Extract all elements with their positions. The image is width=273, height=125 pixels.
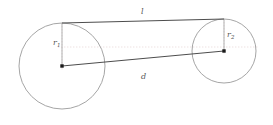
center-distance-label: d xyxy=(141,73,146,81)
right-center-point xyxy=(222,49,225,52)
right-radius-label: r2 xyxy=(227,31,234,39)
left-center-point xyxy=(60,64,63,67)
left-radius-subscript: 1 xyxy=(57,42,61,48)
left-radius-label: r1 xyxy=(53,39,60,47)
geometry-figure: l d r1 r2 xyxy=(0,0,273,125)
tangent-length-label: l xyxy=(141,8,144,16)
right-radius-subscript: 2 xyxy=(231,34,235,40)
center-distance-segment xyxy=(62,51,224,66)
tangent-line-segment xyxy=(62,19,224,23)
figure-canvas xyxy=(0,0,273,125)
construction-guides xyxy=(58,19,258,70)
